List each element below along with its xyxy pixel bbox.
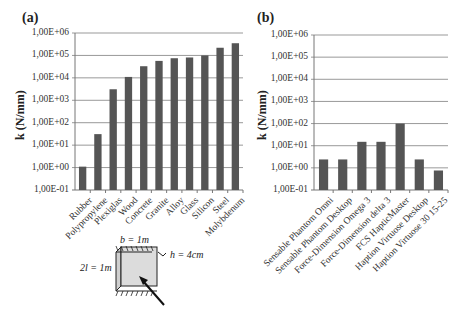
- width-label: b = 1m: [120, 234, 149, 245]
- plate-drawing: [0, 0, 461, 317]
- thickness-label: h = 4cm: [170, 249, 203, 260]
- length-label: 2l = 1m: [80, 262, 112, 273]
